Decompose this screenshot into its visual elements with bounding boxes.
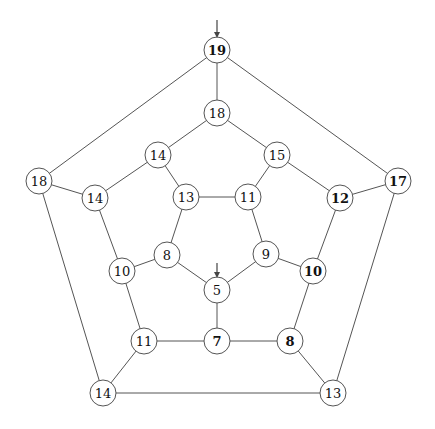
graph-node-label: 11 [136,334,153,349]
graph-edge [134,259,155,266]
graph-node-label: 14 [87,191,104,206]
graph-edge [178,262,207,282]
graph-edge [126,283,140,328]
graph-node[interactable]: 9 [253,241,279,267]
graph-node-label: 8 [163,248,171,263]
graph-node-label: 14 [150,148,167,163]
graph-edge [165,166,179,186]
graph-edge [318,210,336,259]
node-layer: 19171314181815121087111014141311958 [26,37,411,406]
graph-node-label: 8 [285,334,294,349]
graph-node-label: 12 [331,191,349,206]
graph-edge [227,262,255,283]
graph-node[interactable]: 5 [204,277,230,303]
graph-node-label: 11 [240,190,257,205]
graph-canvas: 19171314181815121087111014141311958 [0,0,435,429]
graph-node-label: 10 [114,264,131,279]
graph-edge [111,351,136,383]
graph-edge [288,162,330,190]
graph-node-label: 10 [304,264,322,279]
graph-node-label: 18 [209,106,226,121]
graph-node[interactable]: 11 [131,328,157,354]
graph-node[interactable]: 7 [204,328,230,354]
graph-edge [278,258,301,266]
graph-edge [298,351,324,383]
graph-node[interactable]: 14 [145,142,171,168]
graph-edge [255,166,269,187]
graph-edge [171,209,182,242]
graph-node[interactable]: 14 [82,185,108,211]
graph-entry-arrow [214,263,220,278]
graph-node-label: 9 [262,247,270,262]
graph-node-label: 7 [212,334,221,349]
graph-edge [106,162,148,190]
graph-edge [49,58,206,174]
graph-node-label: 15 [269,148,286,163]
graph-node[interactable]: 18 [26,168,52,194]
graph-node[interactable]: 13 [320,380,346,406]
graph-edge [100,210,118,259]
graph-node-label: 19 [208,43,226,58]
graph-node[interactable]: 10 [109,258,135,284]
graph-node-label: 13 [178,190,195,205]
graph-edge [228,58,388,174]
graph-edge [169,121,207,148]
graph-node-label: 18 [31,174,48,189]
graph-figure: 19171314181815121087111014141311958 [0,0,435,429]
graph-edge [337,193,394,380]
graph-edge [352,185,385,195]
graph-edge [43,193,99,380]
graph-node[interactable]: 19 [204,37,230,63]
graph-node[interactable]: 11 [235,184,261,210]
graph-node-label: 13 [325,386,342,401]
graph-node-label: 5 [213,283,221,298]
graph-node[interactable]: 10 [300,258,326,284]
graph-node-label: 17 [389,174,407,189]
graph-node[interactable]: 17 [385,168,411,194]
graph-node[interactable]: 8 [154,242,180,268]
graph-edge [294,283,309,328]
graph-edge [228,120,267,147]
graph-edge [51,185,82,194]
graph-node[interactable]: 8 [277,328,303,354]
graph-node[interactable]: 14 [90,380,116,406]
graph-node-label: 14 [95,386,112,401]
graph-node[interactable]: 13 [173,184,199,210]
graph-edge [252,209,262,241]
graph-node[interactable]: 15 [264,142,290,168]
graph-node[interactable]: 18 [204,100,230,126]
graph-entry-arrow [214,20,220,38]
graph-node[interactable]: 12 [327,185,353,211]
